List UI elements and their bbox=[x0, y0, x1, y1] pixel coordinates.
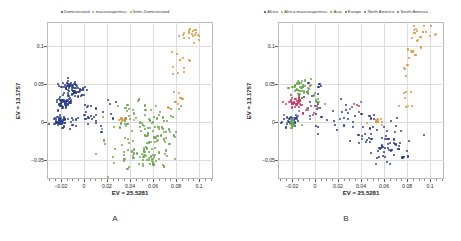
scatter-point bbox=[102, 116, 104, 118]
scatter-point bbox=[102, 111, 104, 113]
legend-marker-icon bbox=[281, 11, 283, 13]
scatter-point bbox=[91, 118, 93, 120]
x-axis-minor-tick bbox=[344, 179, 345, 181]
scatter-point bbox=[365, 141, 367, 143]
scatter-point bbox=[54, 117, 56, 119]
scatter-point bbox=[358, 142, 360, 144]
scatter-point bbox=[406, 150, 408, 152]
scatter-point bbox=[144, 114, 146, 116]
x-axis-minor-tick bbox=[101, 179, 102, 181]
scatter-point bbox=[383, 126, 385, 128]
scatter-point bbox=[148, 151, 150, 153]
legend-item-asia[interactable]: Asia bbox=[330, 9, 341, 14]
scatter-point bbox=[58, 85, 60, 87]
scatter-point bbox=[163, 138, 165, 140]
scatter-point bbox=[282, 101, 284, 103]
y-axis-tick-mark bbox=[275, 46, 278, 47]
x-axis-minor-tick bbox=[373, 179, 374, 181]
x-axis-tick-mark bbox=[61, 179, 62, 182]
scatter-point bbox=[173, 91, 175, 93]
scatter-point bbox=[178, 92, 180, 94]
scatter-point bbox=[188, 29, 190, 31]
scatter-point bbox=[112, 117, 114, 119]
x-axis-minor-tick bbox=[182, 179, 183, 181]
scatter-point bbox=[393, 142, 395, 144]
scatter-point bbox=[131, 150, 133, 152]
scatter-point bbox=[121, 144, 123, 146]
x-axis-minor-tick bbox=[113, 179, 114, 181]
scatter-point bbox=[294, 85, 296, 87]
scatter-point bbox=[95, 122, 97, 124]
scatter-point bbox=[361, 135, 363, 137]
legend-item-label: Africa-mucosospermus bbox=[284, 9, 327, 14]
scatter-point bbox=[158, 128, 160, 130]
scatter-point bbox=[93, 116, 95, 118]
scatter-point bbox=[164, 141, 166, 143]
legend-marker-icon bbox=[61, 11, 63, 13]
scatter-point bbox=[74, 83, 76, 85]
x-axis-minor-tick bbox=[413, 179, 414, 181]
scatter-point bbox=[100, 125, 102, 127]
y-axis-tick-mark bbox=[44, 160, 47, 161]
scatter-point bbox=[389, 142, 391, 144]
scatter-point bbox=[397, 148, 399, 150]
scatter-point bbox=[107, 176, 109, 178]
scatter-point bbox=[400, 130, 402, 132]
scatter-point bbox=[317, 93, 319, 95]
legend-item-south-america[interactable]: South America bbox=[397, 9, 428, 14]
scatter-point bbox=[393, 138, 395, 140]
legend-item-mucosospermus[interactable]: mucosospermus bbox=[92, 9, 126, 14]
scatter-point bbox=[283, 118, 285, 120]
legend-item-domesticated[interactable]: Domesticated bbox=[61, 9, 90, 14]
legend-item-africa[interactable]: Africa bbox=[264, 9, 278, 14]
scatter-point bbox=[103, 139, 105, 141]
legend-item-label: mucosospermus bbox=[96, 9, 127, 14]
scatter-point bbox=[317, 126, 319, 128]
scatter-point bbox=[59, 116, 61, 118]
x-axis-label-a: EV = 25.5281 bbox=[47, 190, 213, 196]
scatter-point bbox=[398, 145, 400, 147]
scatter-point bbox=[326, 119, 328, 121]
scatter-point bbox=[347, 118, 349, 120]
scatter-point bbox=[132, 109, 134, 111]
scatter-point bbox=[83, 94, 85, 96]
scatter-point bbox=[332, 110, 334, 112]
scatter-point bbox=[126, 104, 128, 106]
scatter-point bbox=[290, 94, 292, 96]
scatter-point bbox=[109, 103, 111, 105]
x-axis-minor-tick bbox=[90, 179, 91, 181]
legend-item-north-america[interactable]: North America bbox=[364, 9, 394, 14]
x-axis-minor-tick bbox=[165, 179, 166, 181]
scatter-point bbox=[320, 116, 322, 118]
scatter-point bbox=[84, 118, 86, 120]
legend-item-semi-domesticated[interactable]: Semi-Domesticated bbox=[130, 9, 170, 14]
scatter-point bbox=[301, 97, 303, 99]
x-axis-minor-tick bbox=[95, 179, 96, 181]
scatter-point bbox=[150, 109, 152, 111]
x-axis-minor-tick bbox=[390, 179, 391, 181]
scatter-point bbox=[140, 130, 142, 132]
scatter-point bbox=[294, 98, 296, 100]
x-axis-minor-tick bbox=[159, 179, 160, 181]
scatter-point bbox=[183, 71, 185, 73]
scatter-point bbox=[151, 148, 153, 150]
legend-item-europe[interactable]: Europe bbox=[345, 9, 362, 14]
x-axis-minor-tick bbox=[349, 179, 350, 181]
scatter-point bbox=[132, 157, 134, 159]
scatter-point bbox=[407, 155, 409, 157]
scatter-point bbox=[298, 96, 300, 98]
scatter-point bbox=[152, 130, 154, 132]
scatter-point bbox=[112, 156, 114, 158]
y-axis-label-a: EV = 13.1757 bbox=[13, 22, 23, 179]
scatter-point bbox=[297, 80, 299, 82]
scatter-point bbox=[343, 117, 345, 119]
legend-item-africa-mucosospermus[interactable]: Africa-mucosospermus bbox=[281, 9, 327, 14]
scatter-point bbox=[417, 39, 419, 41]
scatter-point bbox=[180, 105, 182, 107]
scatter-point bbox=[128, 108, 130, 110]
scatter-point bbox=[168, 128, 170, 130]
x-axis-tick-mark bbox=[176, 179, 177, 182]
x-axis-tick-mark bbox=[84, 179, 85, 182]
scatter-point bbox=[324, 103, 326, 105]
y-axis-tick-mark bbox=[275, 84, 278, 85]
